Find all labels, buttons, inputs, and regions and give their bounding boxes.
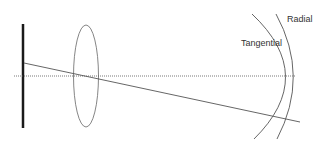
tangential-focal-surface [252, 14, 286, 139]
tangential-label: Tangential [241, 38, 282, 48]
radial-label: Radial [287, 14, 313, 24]
astigmatism-diagram: Radial Tangential [0, 0, 326, 145]
chief-ray [24, 63, 300, 122]
